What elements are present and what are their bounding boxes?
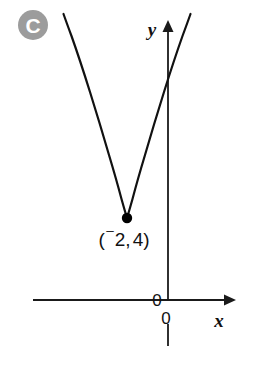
- y-axis-label: y: [146, 19, 157, 40]
- problem-label-badge: C: [18, 10, 48, 40]
- vertex-close-paren: ): [143, 229, 149, 250]
- parabola-figure: C y x 0 0 (⁻2,4): [0, 0, 253, 386]
- origin-label-below-axis: 0: [161, 309, 170, 328]
- vertex-point-marker: [122, 213, 132, 223]
- vertex-comma: ,: [125, 229, 130, 250]
- x-axis-label: x: [213, 310, 224, 331]
- figure-canvas: C y x 0 0 (⁻2,4): [0, 0, 253, 386]
- badge-letter: C: [25, 14, 40, 37]
- vertex-y-value: 4: [133, 229, 144, 250]
- vertex-minus-sign: ⁻: [105, 224, 115, 245]
- vertex-x-value: 2: [115, 229, 126, 250]
- origin-label-on-axis: 0: [152, 291, 161, 310]
